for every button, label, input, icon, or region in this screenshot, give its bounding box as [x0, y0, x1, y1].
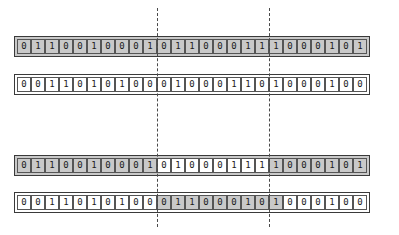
bit-cell: 0 [227, 195, 241, 210]
bit-cell: 0 [143, 195, 157, 210]
bit-cell: 0 [157, 77, 171, 92]
bit-cell: 1 [269, 195, 283, 210]
bit-cell: 1 [115, 195, 129, 210]
bit-cell: 0 [339, 158, 353, 173]
sequence-row-lower-first: 0110010001010001111000101 [14, 155, 370, 176]
sequence-row-upper-first: 0110010001011000111000101 [14, 36, 370, 57]
bit-cell: 0 [283, 39, 297, 54]
bit-cell: 0 [255, 77, 269, 92]
bit-cell: 1 [87, 158, 101, 173]
bit-cell: 1 [227, 77, 241, 92]
bit-cell: 0 [73, 39, 87, 54]
bit-cell: 0 [129, 77, 143, 92]
bit-cell: 0 [339, 195, 353, 210]
bit-cell: 0 [283, 195, 297, 210]
bit-cell: 0 [115, 39, 129, 54]
bit-cell: 0 [227, 39, 241, 54]
bit-cell: 0 [297, 195, 311, 210]
bit-cell: 1 [31, 39, 45, 54]
bit-cell: 0 [59, 39, 73, 54]
bit-cell: 0 [283, 77, 297, 92]
bit-cell: 1 [325, 77, 339, 92]
bit-cell: 0 [311, 39, 325, 54]
bit-cell: 0 [157, 39, 171, 54]
bit-cell: 0 [129, 158, 143, 173]
bit-cell: 1 [353, 158, 367, 173]
bit-cell: 0 [101, 39, 115, 54]
bit-cell: 1 [171, 39, 185, 54]
bit-cell: 0 [185, 77, 199, 92]
bit-cell: 0 [213, 195, 227, 210]
bit-cell: 0 [213, 77, 227, 92]
bit-cell: 0 [283, 158, 297, 173]
bit-cell: 1 [241, 195, 255, 210]
bit-cell: 1 [255, 39, 269, 54]
bit-cell: 1 [45, 195, 59, 210]
bit-cell: 0 [101, 158, 115, 173]
bit-cell: 1 [59, 195, 73, 210]
bit-cell: 0 [17, 77, 31, 92]
bit-cell: 1 [171, 195, 185, 210]
bit-cell: 0 [17, 39, 31, 54]
bit-cell: 1 [45, 158, 59, 173]
bit-cell: 0 [297, 39, 311, 54]
bit-cell: 0 [115, 158, 129, 173]
bit-cell: 1 [45, 39, 59, 54]
sequence-row-lower-second: 0011010100011000101000100 [14, 192, 370, 213]
bit-cell: 1 [269, 77, 283, 92]
bit-cell: 0 [199, 77, 213, 92]
bit-cell: 0 [339, 77, 353, 92]
bit-cell: 0 [311, 158, 325, 173]
bit-cell: 0 [59, 158, 73, 173]
bit-cell: 0 [31, 77, 45, 92]
bit-cell: 1 [325, 158, 339, 173]
bit-cell: 0 [129, 39, 143, 54]
bit-cell: 1 [87, 195, 101, 210]
bit-cell: 0 [255, 195, 269, 210]
bit-cell: 1 [143, 158, 157, 173]
bit-cell: 0 [353, 195, 367, 210]
bit-cell: 1 [269, 39, 283, 54]
bit-cell: 0 [143, 77, 157, 92]
bit-cell: 0 [199, 39, 213, 54]
bit-cell: 0 [311, 77, 325, 92]
bit-cell: 0 [129, 195, 143, 210]
bit-cell: 0 [31, 195, 45, 210]
bit-cell: 1 [241, 39, 255, 54]
bit-cell: 1 [269, 158, 283, 173]
right-alignment-guide [269, 8, 270, 227]
bit-cell: 0 [73, 195, 87, 210]
bit-cell: 1 [115, 77, 129, 92]
bit-cell: 1 [353, 39, 367, 54]
bit-cell: 0 [213, 158, 227, 173]
diagram-canvas: 0110010001011000111000101 00110101000100… [0, 0, 399, 235]
bit-cell: 0 [297, 158, 311, 173]
bit-cell: 1 [185, 195, 199, 210]
bit-cell: 0 [353, 77, 367, 92]
bit-cell: 0 [339, 39, 353, 54]
bit-cell: 1 [325, 195, 339, 210]
bit-cell: 0 [199, 158, 213, 173]
bit-cell: 1 [325, 39, 339, 54]
bit-cell: 1 [59, 77, 73, 92]
bit-cell: 0 [311, 195, 325, 210]
bit-cell: 0 [157, 158, 171, 173]
bit-cell: 1 [227, 158, 241, 173]
bit-cell: 1 [45, 77, 59, 92]
bit-cell: 1 [87, 77, 101, 92]
bit-cell: 1 [255, 158, 269, 173]
bit-cell: 0 [213, 39, 227, 54]
bit-cell: 0 [157, 195, 171, 210]
left-alignment-guide [157, 8, 158, 227]
bit-cell: 0 [73, 77, 87, 92]
bit-cell: 1 [87, 39, 101, 54]
bit-cell: 1 [171, 158, 185, 173]
bit-cell: 1 [143, 39, 157, 54]
bit-cell: 0 [297, 77, 311, 92]
bit-cell: 0 [101, 77, 115, 92]
bit-cell: 0 [185, 158, 199, 173]
sequence-row-upper-second: 0011010100010001101000100 [14, 74, 370, 95]
bit-cell: 1 [241, 77, 255, 92]
bit-cell: 0 [17, 158, 31, 173]
bit-cell: 1 [171, 77, 185, 92]
